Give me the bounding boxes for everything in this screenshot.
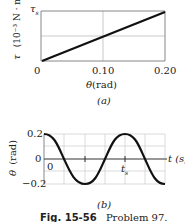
ts-subscript: s: [125, 169, 128, 176]
panel-a-caption: (a): [97, 96, 111, 106]
panel-a-xtick-0.20: 0.20: [154, 66, 176, 76]
panel-a-y-units: (10⁻³ N · m): [12, 0, 22, 47]
panel-b-xtick-0: 0: [47, 162, 53, 172]
panel-a-ytick-tau-s: τs: [30, 4, 39, 18]
panel-a-xtick-0: 0: [34, 66, 40, 76]
tau-symbol: τ: [11, 54, 22, 60]
tau-s-subscript: s: [36, 9, 39, 16]
figure-caption-text: Problem 97.: [106, 212, 168, 222]
panel-a-xtick-0.10: 0.10: [92, 66, 114, 76]
theta-symbol: θ: [7, 170, 18, 176]
panel-a-line: [42, 12, 165, 61]
panel-b-caption: (b): [97, 200, 111, 210]
panel-b-x-axis-label: t (s): [168, 154, 185, 164]
panel-b-y-units: (rad): [7, 140, 18, 165]
panel-b-ytick-0: 0: [35, 154, 41, 164]
panel-b-y-axis-label: θ (rad): [8, 140, 18, 176]
panel-b-ytick-neg-0.2: −0.2: [22, 179, 46, 189]
panel-a-x-units: (rad): [92, 79, 117, 90]
panel-b-xtick-ts: ts: [121, 164, 128, 178]
figure-number: Fig. 15-56: [40, 212, 97, 222]
figure-caption: Fig. 15-56 Problem 97.: [40, 212, 168, 222]
panel-b-ytick-0.2: 0.2: [27, 129, 43, 139]
panel-a-x-axis-label: θ(rad): [86, 80, 117, 90]
panel-a-y-axis-label: τ (10⁻³ N · m): [12, 0, 22, 60]
